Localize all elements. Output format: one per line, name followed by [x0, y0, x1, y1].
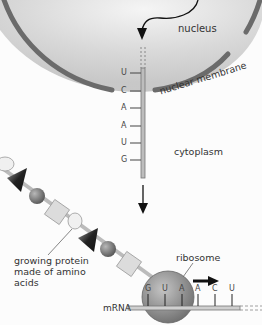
protein-label-line2: made of amino [14, 266, 89, 277]
ribosome-base: C [212, 284, 218, 293]
nucleus-region [0, 0, 262, 92]
ribosome-base: A [195, 284, 200, 293]
protein-label-line3: acids [14, 277, 89, 288]
mrna-strand-horizontal [128, 294, 262, 310]
amino-acid-oval [68, 213, 82, 229]
ribosome [142, 263, 194, 323]
down-arrow [138, 185, 148, 214]
ribosome-base: A [179, 284, 184, 293]
strand-base: U [121, 138, 127, 147]
strand-base: A [121, 121, 126, 130]
protein-label-line1: growing protein [14, 255, 89, 266]
cytoplasm-label: cytoplasm [174, 146, 223, 157]
amino-acid-sphere [100, 241, 116, 257]
protein-label: growing protein made of amino acids [14, 255, 89, 288]
amino-acid-oval [0, 157, 14, 171]
ribosome-base: U [162, 284, 168, 293]
strand-base: A [121, 103, 126, 112]
strand-base: G [121, 155, 127, 164]
ribosome-base: G [145, 284, 151, 293]
mrna-label: mRNA [103, 303, 131, 314]
ribosome-label: ribosome [176, 252, 220, 263]
nucleus-label: nucleus [178, 23, 217, 34]
protein-synthesis-diagram: nucleus nuclear membrane cytoplasm growi… [0, 0, 262, 325]
amino-acid-sphere [29, 188, 45, 204]
protein-pointer-line [48, 229, 72, 255]
ribosome-base: U [229, 284, 235, 293]
strand-base: U [121, 68, 127, 77]
strand-base: C [121, 86, 127, 95]
